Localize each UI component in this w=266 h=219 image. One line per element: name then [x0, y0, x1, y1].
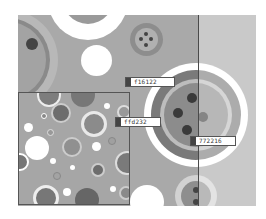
button-hole: [144, 43, 148, 47]
thumb-button: [62, 137, 82, 157]
button-hole: [139, 37, 143, 41]
color-hex-value: 772216: [198, 137, 222, 145]
thumb-dot: [41, 113, 47, 119]
thumb-button: [33, 185, 59, 205]
button-hole: [182, 125, 192, 135]
color-hex-value: f16122: [133, 78, 157, 86]
thumb-dot: [108, 137, 116, 145]
color-swatch: [126, 78, 131, 86]
thumb-dot: [53, 172, 61, 180]
thumb-button: [51, 103, 71, 123]
thumb-button: [75, 188, 99, 205]
button-hole: [149, 37, 153, 41]
color-swatch: [116, 118, 121, 126]
color-label-2[interactable]: ffd232: [115, 117, 161, 127]
pattern-thumbnail[interactable]: [18, 92, 130, 205]
thumb-dot: [104, 103, 110, 109]
color-hex-value: ffd232: [123, 118, 147, 126]
color-swatch: [191, 137, 196, 145]
thumb-button: [71, 92, 95, 107]
button-hole: [144, 32, 148, 36]
sample-overlay: [198, 15, 256, 206]
thumb-dot: [92, 142, 101, 151]
thumb-button: [91, 163, 105, 177]
thumb-dot: [110, 186, 116, 192]
thumb-big-dot: [25, 136, 49, 160]
thumb-button: [119, 186, 130, 200]
thumb-dot: [47, 129, 54, 136]
button-hole: [187, 93, 197, 103]
white-dot: [81, 45, 112, 76]
button-hole: [173, 108, 183, 118]
thumb-dot: [70, 165, 75, 170]
bottom-white-dot: [130, 185, 164, 206]
color-picker-canvas[interactable]: [18, 15, 256, 206]
color-label-3[interactable]: 772216: [190, 136, 236, 146]
thumb-button: [115, 151, 130, 175]
thumb-button: [81, 111, 107, 137]
button-hole: [26, 38, 38, 50]
thumb-dot: [63, 188, 71, 196]
sample-divider-line[interactable]: [198, 15, 199, 206]
thumb-dot: [50, 158, 56, 164]
thumb-dot: [24, 123, 33, 132]
color-label-1[interactable]: f16122: [125, 77, 175, 87]
